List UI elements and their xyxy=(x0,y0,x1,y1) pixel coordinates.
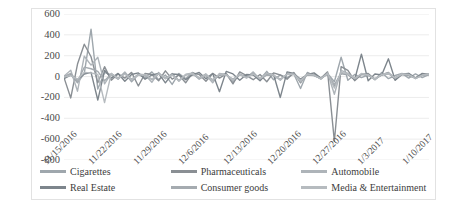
legend-color-swatch xyxy=(40,170,66,173)
legend-item[interactable]: Media & Entertainment xyxy=(301,182,432,193)
y-axis-tick-label: 600 xyxy=(26,9,60,20)
legend-item-label: Media & Entertainment xyxy=(331,182,426,193)
legend-color-swatch xyxy=(171,186,197,189)
legend-item[interactable]: Automobile xyxy=(301,166,432,177)
legend-item-label: Automobile xyxy=(331,166,379,177)
y-axis-tick-label: 400 xyxy=(26,30,60,41)
series-line xyxy=(64,29,429,89)
chart-legend: CigarettesPharmaceuticalsAutomobileReal … xyxy=(40,163,432,195)
y-axis-tick-label: -400 xyxy=(26,113,60,124)
legend-item[interactable]: Pharmaceuticals xyxy=(171,166,302,177)
legend-item[interactable]: Consumer goods xyxy=(171,182,302,193)
series-line xyxy=(64,44,429,141)
legend-item-label: Cigarettes xyxy=(70,166,111,177)
legend-color-swatch xyxy=(301,186,327,189)
legend-item[interactable]: Real Estate xyxy=(40,182,171,193)
legend-color-swatch xyxy=(171,170,197,173)
y-axis-tick-label: -600 xyxy=(26,134,60,145)
legend-item-label: Real Estate xyxy=(70,182,115,193)
legend-item-label: Pharmaceuticals xyxy=(201,166,267,177)
y-axis: 6004002000-200-400-600-800 xyxy=(20,14,60,160)
legend-color-swatch xyxy=(301,170,327,173)
legend-item[interactable]: Cigarettes xyxy=(40,166,171,177)
legend-color-swatch xyxy=(40,186,66,189)
y-axis-tick-label: -200 xyxy=(26,92,60,103)
legend-item-label: Consumer goods xyxy=(201,182,269,193)
y-axis-tick-label: 200 xyxy=(26,51,60,62)
y-axis-tick-label: 0 xyxy=(26,72,60,83)
line-chart: 6004002000-200-400-600-800 11/15/201611/… xyxy=(0,0,468,219)
